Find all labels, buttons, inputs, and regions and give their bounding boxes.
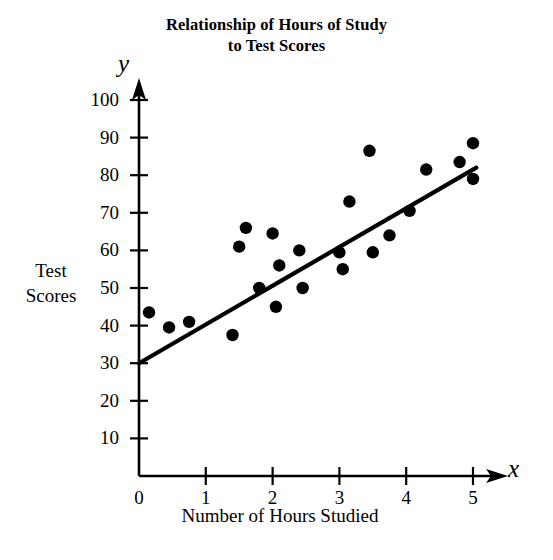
- data-point: [143, 306, 155, 318]
- data-point: [226, 329, 238, 341]
- data-point: [467, 173, 479, 185]
- x-tick-label: 4: [391, 488, 421, 507]
- axes-group: [132, 78, 508, 483]
- y-tick-label: 80: [73, 165, 119, 184]
- data-point: [333, 246, 345, 258]
- trendline: [139, 168, 476, 364]
- data-point: [343, 195, 355, 207]
- y-tick-label: 100: [73, 90, 119, 109]
- data-point: [467, 137, 479, 149]
- data-points-group: [143, 137, 479, 341]
- data-point: [420, 163, 432, 175]
- data-point: [163, 321, 175, 333]
- y-tick-label: 90: [73, 128, 119, 147]
- data-point: [383, 229, 395, 241]
- y-tick-label: 30: [73, 353, 119, 372]
- data-point: [337, 263, 349, 275]
- data-point: [273, 259, 285, 271]
- x-tick-label: 0: [124, 488, 154, 507]
- data-point: [183, 316, 195, 328]
- data-point: [270, 301, 282, 313]
- x-tick-label: 3: [324, 488, 354, 507]
- y-tick-label: 20: [73, 391, 119, 410]
- data-point: [367, 246, 379, 258]
- data-point: [253, 282, 265, 294]
- data-point: [266, 227, 278, 239]
- x-tick-label: 5: [458, 488, 488, 507]
- data-point: [403, 205, 415, 217]
- data-point: [240, 222, 252, 234]
- scatter-plot-figure: Relationship of Hours of Study to Test S…: [0, 0, 553, 560]
- data-point: [363, 145, 375, 157]
- data-point: [293, 244, 305, 256]
- data-point: [233, 240, 245, 252]
- y-tick-label: 60: [73, 240, 119, 259]
- trendline-segment: [139, 168, 476, 364]
- y-tick-label: 50: [73, 278, 119, 297]
- y-tick-label: 70: [73, 203, 119, 222]
- data-point: [296, 282, 308, 294]
- y-tick-label: 10: [73, 428, 119, 447]
- x-tick-label: 1: [191, 488, 221, 507]
- data-point: [453, 156, 465, 168]
- y-tick-label: 40: [73, 316, 119, 335]
- x-tick-label: 2: [258, 488, 288, 507]
